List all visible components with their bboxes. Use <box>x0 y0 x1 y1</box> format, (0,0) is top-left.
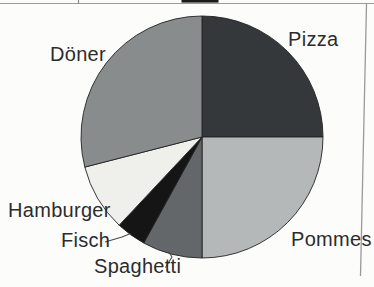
top-dark-segment-artifact <box>182 0 219 3</box>
slice-label-hamburger: Hamburger <box>8 200 111 220</box>
scanned-pie-chart-page: Pizza Pommes Spaghetti Fisch Hamburger D… <box>0 0 374 287</box>
slice-label-fisch: Fisch <box>61 230 110 250</box>
pie-slices-group <box>81 16 323 258</box>
slice-label-spaghetti: Spaghetti <box>94 256 181 276</box>
slice-label-pommes: Pommes <box>291 229 372 249</box>
slice-label-doener: Döner <box>50 44 106 64</box>
slice-label-pizza: Pizza <box>288 29 338 49</box>
